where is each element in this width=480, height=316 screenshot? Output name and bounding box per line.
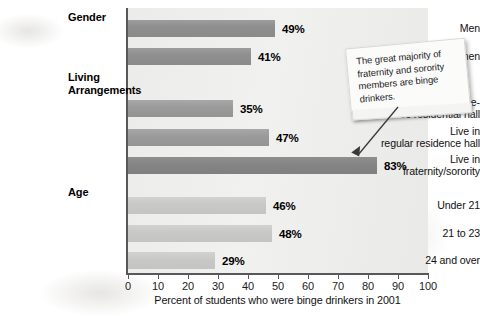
group-heading-line: Age [68, 186, 88, 199]
x-axis-tick-label: 0 [113, 280, 143, 292]
group-heading-age: Age [68, 186, 88, 199]
category-label: 21 to 23 [357, 227, 480, 239]
scan-artifact [40, 270, 160, 316]
x-axis-tick-label: 100 [413, 280, 443, 292]
x-axis-tick [338, 274, 339, 279]
bar [128, 197, 266, 214]
scan-artifact [0, 14, 64, 48]
bar-value-label: 48% [279, 228, 301, 240]
x-axis-tick [128, 274, 129, 279]
bar-value-label: 46% [273, 200, 295, 212]
category-label-line: Men [357, 22, 480, 34]
bar [128, 20, 275, 37]
category-label-line: Under 21 [357, 199, 480, 211]
x-axis-tick [278, 274, 279, 279]
annotation-arrow [340, 105, 410, 167]
x-axis-tick [308, 274, 309, 279]
x-axis-tick [218, 274, 219, 279]
x-axis-tick-label: 10 [143, 280, 173, 292]
bar-value-label: 41% [258, 51, 280, 63]
x-axis-tick-label: 90 [383, 280, 413, 292]
category-label-line: 21 to 23 [357, 227, 480, 239]
group-heading-line: Arrangements [68, 84, 141, 97]
group-heading-living-arrangements: LivingArrangements [68, 71, 141, 96]
bar [128, 48, 251, 65]
group-heading-line: Living [68, 71, 141, 84]
group-heading-gender: Gender [68, 11, 106, 24]
x-axis-tick [398, 274, 399, 279]
x-axis-tick [188, 274, 189, 279]
bar-value-label: 47% [276, 132, 298, 144]
bar [128, 129, 269, 146]
category-label: Under 21 [357, 199, 480, 211]
category-label-line: 24 and over [357, 254, 480, 266]
bar-value-label: 49% [282, 23, 304, 35]
bar [128, 100, 233, 117]
category-label: Men [357, 22, 480, 34]
x-axis-title: Percent of students who were binge drink… [127, 294, 428, 306]
x-axis-tick [158, 274, 159, 279]
x-axis-tick-label: 70 [323, 280, 353, 292]
x-axis-tick-label: 40 [233, 280, 263, 292]
x-axis-tick [248, 274, 249, 279]
x-axis-tick [428, 274, 429, 279]
x-axis-tick-label: 60 [293, 280, 323, 292]
group-heading-line: Gender [68, 11, 106, 24]
bar-value-label: 29% [222, 255, 244, 267]
x-axis-tick-label: 20 [173, 280, 203, 292]
x-axis-tick-label: 50 [263, 280, 293, 292]
bar [128, 225, 272, 242]
x-axis-tick-label: 80 [353, 280, 383, 292]
category-label: 24 and over [357, 254, 480, 266]
x-axis-tick-label: 30 [203, 280, 233, 292]
bar [128, 252, 215, 269]
bar-value-label: 35% [240, 103, 262, 115]
x-axis-tick [368, 274, 369, 279]
